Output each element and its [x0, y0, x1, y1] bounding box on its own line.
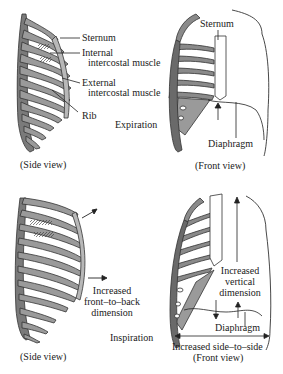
label-front-to-back-line2: front–to–back: [80, 297, 144, 307]
label-rib: Rib: [82, 111, 96, 121]
inspiration-side-ribcage: [15, 198, 85, 343]
caption-inspiration-front-view: (Front view): [193, 353, 243, 363]
inspiration-front-sternum: [210, 194, 222, 266]
caption-expiration-front-view: (Front view): [195, 161, 245, 171]
label-front-to-back-line1: Increased: [84, 286, 140, 296]
label-front-to-back-line3: dimension: [84, 308, 140, 318]
label-diaphragm-expiration: Diaphragm: [208, 139, 253, 149]
label-expiration: Expiration: [115, 120, 157, 130]
inspiration-side-arrows: [82, 209, 107, 281]
label-vertical-line3: dimension: [214, 288, 266, 298]
label-external-intercostal-line2: intercostal muscle: [88, 88, 160, 98]
expiration-front-sternum: [215, 30, 226, 100]
caption-expiration-side-view: (Side view): [20, 160, 66, 170]
expiration-front-lung-outline: [232, 10, 269, 156]
label-diaphragm-inspiration: Diaphragm: [215, 323, 260, 333]
caption-inspiration-side-view: (Side view): [20, 352, 66, 362]
inspiration-front-ribcage: [170, 198, 214, 348]
expiration-side-ribcage: [17, 14, 71, 152]
expiration-front-ribcage: [169, 14, 214, 152]
label-vertical-line1: Increased: [214, 266, 266, 276]
label-sternum-front: Sternum: [200, 19, 234, 29]
label-vertical-line2: vertical: [214, 277, 266, 287]
label-side-to-side: Increased side–to–side: [172, 342, 263, 352]
label-sternum-side: Sternum: [82, 33, 116, 43]
expiration-front-diaphragm-line: [208, 100, 264, 140]
label-internal-intercostal-line2: intercostal muscle: [88, 58, 160, 68]
label-inspiration: Inspiration: [110, 333, 153, 343]
